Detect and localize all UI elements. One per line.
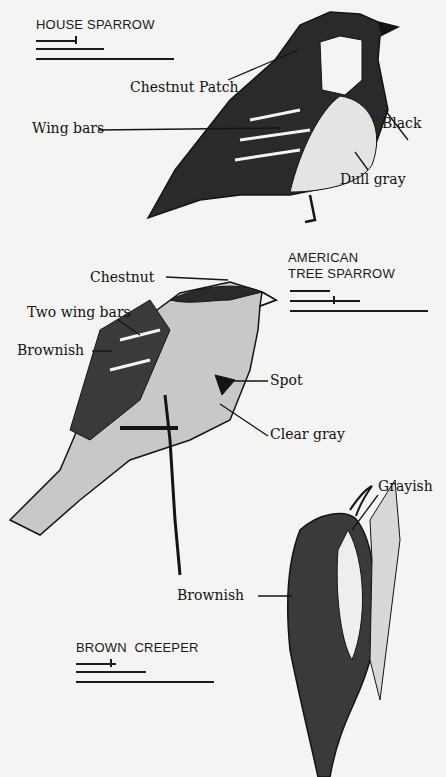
brown-creeper-illustration bbox=[288, 480, 400, 777]
size-bar-large bbox=[36, 58, 174, 60]
label-grayish: Grayish bbox=[378, 478, 433, 494]
size-bar-small bbox=[290, 290, 330, 292]
size-marker bbox=[75, 36, 77, 44]
american-tree-sparrow-illustration bbox=[10, 282, 276, 575]
label-dull-gray: Dull gray bbox=[340, 171, 406, 187]
size-marker bbox=[333, 296, 335, 304]
brown-creeper-title: BROWN CREEPER bbox=[76, 640, 199, 655]
label-two-wing-bars: Two wing bars bbox=[27, 304, 131, 320]
size-bar-medium bbox=[290, 300, 360, 302]
size-bar-medium bbox=[36, 48, 104, 50]
label-wing-bars: Wing bars bbox=[32, 120, 104, 136]
label-chestnut: Chestnut bbox=[90, 269, 154, 285]
label-brownish-creeper: Brownish bbox=[177, 587, 244, 603]
american-tree-sparrow-title-line1: AMERICAN bbox=[288, 250, 358, 265]
house-sparrow-title: HOUSE SPARROW bbox=[36, 17, 155, 32]
label-black: Black bbox=[382, 115, 421, 131]
label-spot: Spot bbox=[270, 372, 303, 388]
american-tree-sparrow-title-line2: TREE SPARROW bbox=[288, 266, 395, 281]
size-bar-large bbox=[290, 310, 428, 312]
size-bar-small bbox=[36, 40, 76, 42]
bird-illustrations bbox=[0, 0, 446, 777]
label-brownish: Brownish bbox=[17, 342, 84, 358]
size-marker bbox=[110, 659, 112, 667]
size-bar-medium bbox=[76, 671, 146, 673]
label-chestnut-patch: Chestnut Patch bbox=[130, 79, 239, 95]
size-bar-large bbox=[76, 681, 214, 683]
label-clear-gray: Clear gray bbox=[270, 426, 345, 442]
house-sparrow-illustration bbox=[148, 12, 398, 222]
